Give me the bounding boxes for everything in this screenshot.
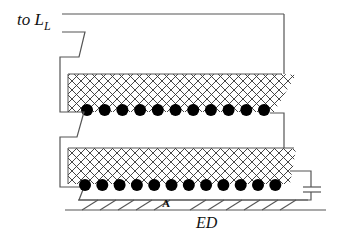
region-a-label: A bbox=[162, 197, 170, 209]
hatch bbox=[82, 200, 98, 210]
electrode-strip bbox=[65, 200, 326, 210]
electrode-label: ED bbox=[195, 214, 218, 231]
connection-label: to LL bbox=[17, 10, 51, 33]
lower-winding bbox=[60, 144, 305, 191]
capacitor bbox=[290, 171, 321, 200]
schematic-diagram: to LL A ED bbox=[0, 0, 341, 245]
upper-winding bbox=[60, 70, 305, 141]
